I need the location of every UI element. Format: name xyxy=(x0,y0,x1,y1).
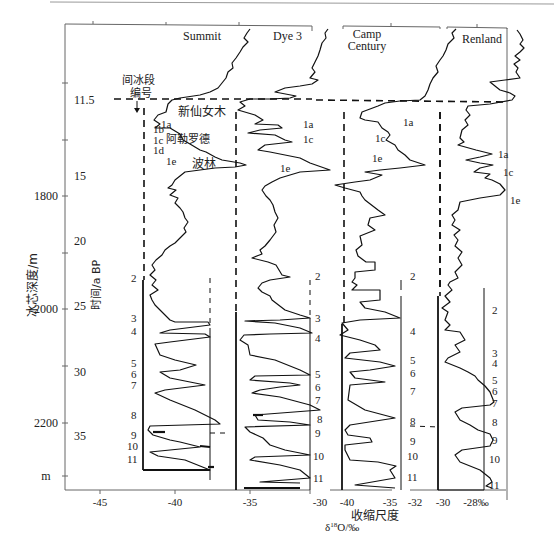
svg-text:10: 10 xyxy=(407,450,419,462)
time-tick-35: 35 xyxy=(74,429,86,443)
svg-text:7: 7 xyxy=(492,397,498,409)
svg-text:-45: -45 xyxy=(93,496,108,508)
panel-title-summit: Summit xyxy=(183,29,222,43)
time-tick-25: 25 xyxy=(74,299,86,313)
svg-text:2: 2 xyxy=(315,270,321,282)
ice-core-delta-o18-chart: 1800 2000 2200 m 11.5 15 20 25 30 35 冰芯深… xyxy=(0,0,554,551)
svg-text:1c: 1c xyxy=(375,132,386,144)
svg-text:5: 5 xyxy=(410,354,416,366)
svg-text:3: 3 xyxy=(315,312,321,324)
svg-text:7: 7 xyxy=(410,385,416,397)
svg-text:1c: 1c xyxy=(303,133,314,145)
svg-text:1e: 1e xyxy=(372,152,383,164)
svg-text:10: 10 xyxy=(313,450,325,462)
svg-text:-35: -35 xyxy=(383,496,398,508)
svg-text:-40: -40 xyxy=(340,496,355,508)
svg-text:4: 4 xyxy=(492,357,498,369)
svg-text:2: 2 xyxy=(131,272,137,284)
panel-title-dye3: Dye 3 xyxy=(273,29,302,43)
svg-text:4: 4 xyxy=(315,332,321,344)
depth-tick-1800: 1800 xyxy=(34,189,58,203)
svg-text:1e: 1e xyxy=(280,162,291,174)
svg-text:11: 11 xyxy=(489,479,500,491)
svg-text:2: 2 xyxy=(492,304,498,316)
svg-text:1d: 1d xyxy=(153,144,165,156)
time-tick-11-5: 11.5 xyxy=(74,93,95,107)
time-axis-title: 时间/a BP xyxy=(90,260,103,310)
event-younger-dryas: 新仙女木 xyxy=(178,104,226,119)
svg-text:11: 11 xyxy=(127,453,138,465)
svg-text:6: 6 xyxy=(315,381,321,393)
svg-text:-30: -30 xyxy=(313,496,328,508)
summit-curve xyxy=(148,29,250,470)
svg-text:-32: -32 xyxy=(408,496,423,508)
svg-text:9: 9 xyxy=(315,427,321,439)
x-axis-subtitle: 收缩尺度 xyxy=(351,508,399,523)
svg-text:-28‰: -28‰ xyxy=(463,496,489,508)
svg-text:7: 7 xyxy=(315,394,321,406)
svg-text:1c: 1c xyxy=(503,166,514,178)
svg-text:1a: 1a xyxy=(403,116,414,128)
svg-text:8: 8 xyxy=(410,415,416,427)
depth-tick-2200: 2200 xyxy=(34,416,58,430)
svg-text:-35: -35 xyxy=(243,496,258,508)
panel-title-renland: Renland xyxy=(462,32,502,46)
svg-text:2: 2 xyxy=(410,270,416,282)
svg-text:3: 3 xyxy=(131,312,137,324)
time-tick-30: 30 xyxy=(74,365,86,379)
x-tick-labels: -45 -40 -35 -30 -40 -35 -32 -30 -28‰ xyxy=(93,496,489,508)
svg-text:-40: -40 xyxy=(168,496,183,508)
event-bolling: 波林 xyxy=(192,157,216,171)
interstadial-label-2: 编号 xyxy=(130,86,152,100)
svg-text:1e: 1e xyxy=(166,155,177,167)
svg-text:9: 9 xyxy=(410,435,416,447)
svg-text:-30: -30 xyxy=(436,496,451,508)
depth-axis-title: 冰芯深度/m xyxy=(25,253,40,317)
summit-interstadial-labels: 1a 1b 1c 1d 1e 2 3 4 5 6 7 8 9 10 11 xyxy=(127,118,177,465)
svg-text:10: 10 xyxy=(489,453,501,465)
interstadial-label: 间冰段 xyxy=(122,73,155,87)
svg-text:8: 8 xyxy=(131,409,137,421)
renland-interstadial-labels: 1a 1c 1e 2 3 4 5 6 7 8 9 10 11 xyxy=(489,148,521,491)
svg-text:6: 6 xyxy=(410,367,416,379)
time-tick-20: 20 xyxy=(74,234,86,248)
event-allerod: 阿勒罗德 xyxy=(166,132,210,146)
renland-curve xyxy=(442,30,524,488)
panel-title-century: Century xyxy=(348,39,387,53)
page-rule xyxy=(50,2,554,4)
svg-text:10: 10 xyxy=(127,440,139,452)
svg-text:9: 9 xyxy=(492,434,498,446)
x-ticks xyxy=(100,490,310,494)
svg-text:11: 11 xyxy=(313,472,324,484)
svg-text:1a: 1a xyxy=(498,148,509,160)
dye3-interstadial-labels: 1a 1c 1e 2 3 4 5 6 7 8 9 10 11 xyxy=(280,118,325,484)
depth-unit: m xyxy=(41,469,51,483)
time-tick-15: 15 xyxy=(74,169,86,183)
svg-text:1a: 1a xyxy=(303,118,314,130)
svg-text:7: 7 xyxy=(131,379,137,391)
svg-text:11: 11 xyxy=(407,471,418,483)
svg-text:6: 6 xyxy=(492,385,498,397)
svg-text:4: 4 xyxy=(410,325,416,337)
svg-text:8: 8 xyxy=(492,416,498,428)
svg-text:8: 8 xyxy=(317,413,323,425)
svg-text:5: 5 xyxy=(315,368,321,380)
svg-text:1e: 1e xyxy=(510,194,521,206)
svg-text:4: 4 xyxy=(131,325,137,337)
